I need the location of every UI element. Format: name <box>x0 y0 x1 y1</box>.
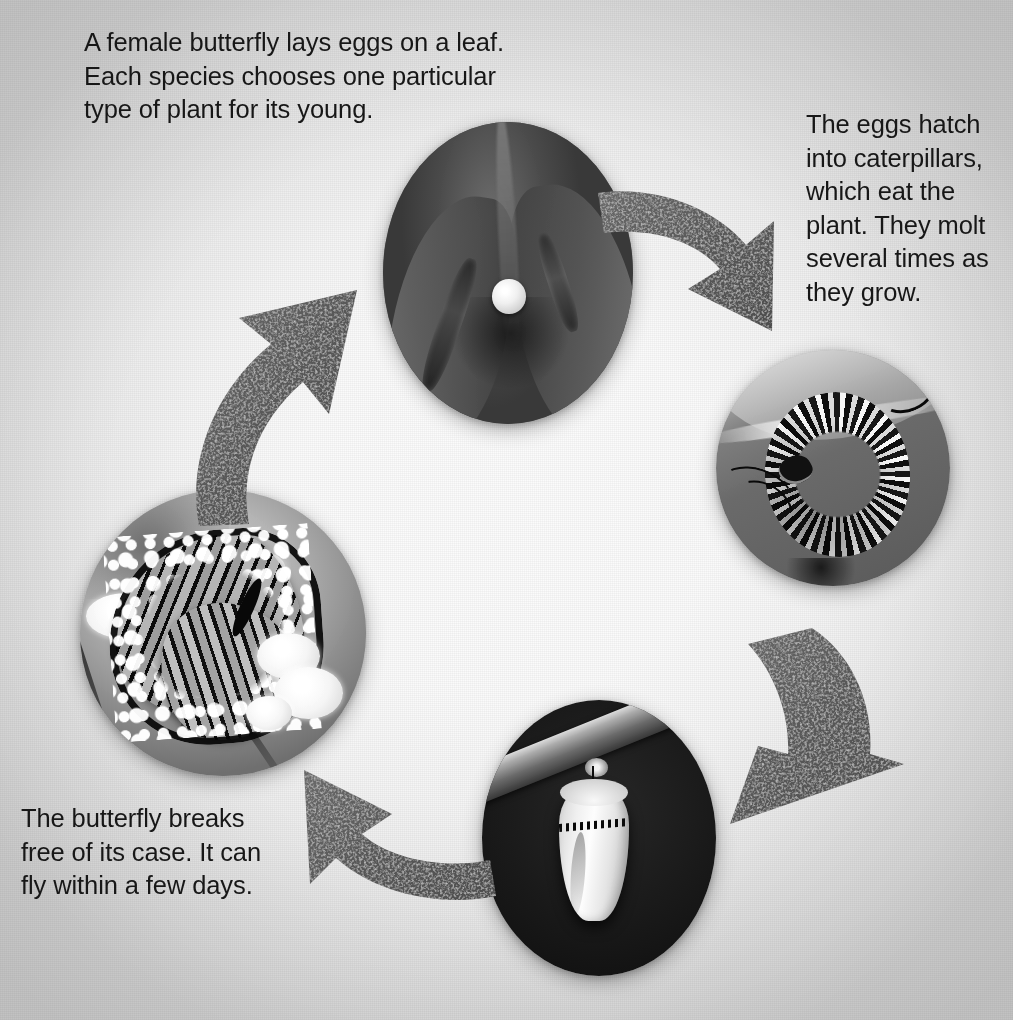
arrow-caterpillar-to-chrysalis <box>724 628 914 828</box>
caterpillar-photo <box>716 350 950 586</box>
diagram-canvas: A female butterfly lays eggs on a leaf. … <box>0 0 1013 1020</box>
butterfly-egg <box>492 279 526 314</box>
arrow-egg-to-caterpillar <box>596 183 796 353</box>
caption-egg-stage: A female butterfly lays eggs on a leaf. … <box>84 26 504 127</box>
arrow-chrysalis-to-butterfly <box>288 766 498 916</box>
caption-butterfly-stage: The butterfly breaks free of its case. I… <box>21 802 261 903</box>
caption-caterpillar-stage: The eggs hatch into caterpillars, which … <box>806 108 989 309</box>
chrysalis-photo <box>482 700 716 976</box>
arrow-butterfly-to-egg <box>163 288 363 528</box>
butterfly-photo <box>80 490 366 776</box>
